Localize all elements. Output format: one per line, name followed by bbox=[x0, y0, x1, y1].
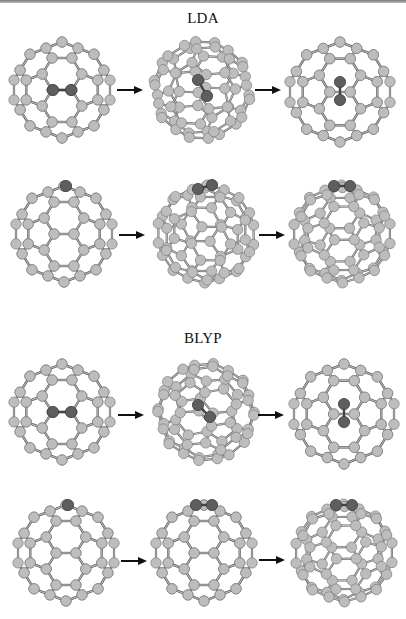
carbon-atom-icon bbox=[315, 240, 325, 250]
carbon-atom-icon bbox=[183, 430, 193, 440]
carbon-atom-icon bbox=[77, 423, 87, 433]
carbon-atom-icon bbox=[303, 223, 313, 233]
carbon-atom-icon bbox=[170, 191, 180, 201]
right-arrow-icon bbox=[117, 86, 143, 94]
carbon-atom-icon bbox=[385, 77, 395, 87]
carbon-atom-icon bbox=[41, 127, 51, 137]
carbon-atom-icon bbox=[99, 65, 109, 75]
carbon-atom-icon bbox=[163, 377, 173, 387]
carbon-atom-icon bbox=[105, 417, 115, 427]
arrow-head bbox=[138, 557, 147, 565]
carbon-atom-icon bbox=[91, 193, 101, 203]
dopant-atom-icon bbox=[201, 90, 212, 101]
carbon-atom-icon bbox=[163, 51, 173, 61]
carbon-atom-icon bbox=[9, 95, 19, 105]
dopant-atom-icon bbox=[192, 74, 203, 85]
carbon-atom-icon bbox=[89, 49, 99, 59]
panel-lda-row1-step2 bbox=[146, 34, 258, 146]
carbon-atom-icon bbox=[193, 100, 203, 110]
carbon-atom-icon bbox=[385, 97, 395, 107]
carbon-atom-icon bbox=[241, 80, 251, 90]
carbon-atom-icon bbox=[189, 580, 199, 590]
panel-lda-row2-step2 bbox=[150, 178, 262, 290]
carbon-atom-icon bbox=[356, 365, 366, 375]
top-border-line bbox=[0, 0, 406, 3]
carbon-atom-icon bbox=[25, 371, 35, 381]
carbon-atom-icon bbox=[200, 387, 210, 397]
dopant-atom-icon bbox=[346, 499, 357, 510]
panel-lda-row2-step3 bbox=[286, 178, 398, 290]
carbon-atom-icon bbox=[179, 40, 189, 50]
carbon-atom-icon bbox=[376, 542, 386, 552]
carbon-atom-icon bbox=[29, 584, 39, 594]
carbon-atom-icon bbox=[315, 208, 325, 218]
carbon-atom-icon bbox=[361, 569, 371, 579]
arrow-shaft bbox=[258, 414, 276, 416]
carbon-atom-icon bbox=[325, 54, 335, 64]
carbon-atom-icon bbox=[295, 388, 305, 398]
carbon-atom-icon bbox=[285, 77, 295, 87]
carbon-atom-icon bbox=[349, 235, 359, 245]
carbon-atom-icon bbox=[157, 112, 167, 122]
carbon-atom-icon bbox=[372, 77, 382, 87]
carbon-atom-icon bbox=[15, 427, 25, 437]
carbon-atom-icon bbox=[329, 235, 339, 245]
fullerene-molecule-icon bbox=[286, 178, 398, 290]
carbon-atom-icon bbox=[195, 255, 205, 265]
carbon-atom-icon bbox=[318, 130, 328, 140]
carbon-atom-icon bbox=[289, 399, 299, 409]
arrow-shaft bbox=[118, 414, 136, 416]
carbon-atom-icon bbox=[318, 426, 328, 436]
right-arrow-icon bbox=[259, 231, 285, 239]
carbon-atom-icon bbox=[355, 104, 365, 114]
carbon-atom-icon bbox=[37, 423, 47, 433]
carbon-atom-icon bbox=[305, 266, 315, 276]
carbon-atom-icon bbox=[81, 532, 91, 542]
carbon-atom-icon bbox=[359, 218, 369, 228]
carbon-atom-icon bbox=[107, 219, 117, 229]
dopant-atom-icon bbox=[65, 406, 76, 417]
carbon-atom-icon bbox=[351, 584, 361, 594]
carbon-atom-icon bbox=[179, 564, 189, 574]
carbon-atom-icon bbox=[59, 277, 69, 287]
carbon-atom-icon bbox=[335, 37, 345, 47]
carbon-atom-icon bbox=[71, 516, 81, 526]
carbon-atom-icon bbox=[222, 102, 232, 112]
carbon-atom-icon bbox=[216, 222, 226, 232]
arrow-head bbox=[135, 411, 144, 419]
carbon-atom-icon bbox=[199, 596, 209, 606]
carbon-atom-icon bbox=[389, 399, 399, 409]
carbon-atom-icon bbox=[103, 568, 113, 578]
carbon-atom-icon bbox=[37, 391, 47, 401]
carbon-atom-icon bbox=[243, 395, 253, 405]
carbon-atom-icon bbox=[186, 238, 196, 248]
carbon-atom-icon bbox=[302, 124, 312, 134]
carbon-atom-icon bbox=[11, 239, 21, 249]
fullerene-molecule-icon bbox=[150, 356, 262, 468]
carbon-atom-icon bbox=[67, 375, 77, 385]
carbon-atom-icon bbox=[349, 376, 359, 386]
carbon-atom-icon bbox=[356, 509, 366, 519]
carbon-atom-icon bbox=[234, 263, 244, 273]
carbon-atom-icon bbox=[163, 86, 173, 96]
carbon-atom-icon bbox=[41, 564, 51, 574]
carbon-atom-icon bbox=[202, 275, 212, 285]
carbon-atom-icon bbox=[331, 554, 341, 564]
carbon-atom-icon bbox=[329, 201, 339, 211]
fullerene-molecule-icon bbox=[148, 497, 260, 609]
carbon-atom-icon bbox=[161, 206, 171, 216]
carbon-atom-icon bbox=[89, 371, 99, 381]
carbon-atom-icon bbox=[175, 408, 185, 418]
carbon-atom-icon bbox=[189, 365, 199, 375]
carbon-atom-icon bbox=[231, 432, 241, 442]
carbon-atom-icon bbox=[218, 384, 228, 394]
carbon-atom-icon bbox=[179, 532, 189, 542]
carbon-atom-icon bbox=[305, 542, 315, 552]
arrow-shaft bbox=[259, 559, 277, 561]
panel-blyp-row2-step1 bbox=[10, 497, 122, 609]
carbon-atom-icon bbox=[19, 568, 29, 578]
carbon-atom-icon bbox=[105, 397, 115, 407]
carbon-atom-icon bbox=[77, 590, 87, 600]
right-arrow-icon bbox=[255, 86, 281, 94]
carbon-atom-icon bbox=[231, 584, 241, 594]
